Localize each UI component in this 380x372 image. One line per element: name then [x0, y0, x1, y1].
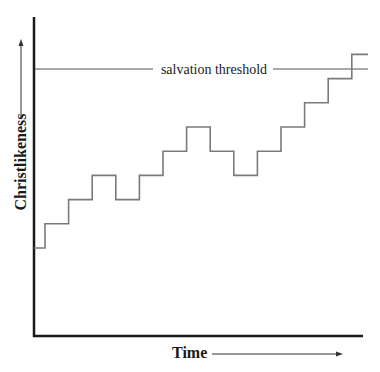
threshold-label: salvation threshold	[161, 62, 267, 77]
y-axis-arrow-icon	[19, 39, 24, 46]
y-axis-label: Christlikeness	[12, 114, 29, 211]
step-chart: salvation threshold Christlikeness Time	[0, 0, 380, 372]
x-axis-arrow-icon	[336, 352, 343, 357]
christlikeness-step-line	[34, 54, 368, 248]
x-axis-label: Time	[172, 344, 207, 361]
